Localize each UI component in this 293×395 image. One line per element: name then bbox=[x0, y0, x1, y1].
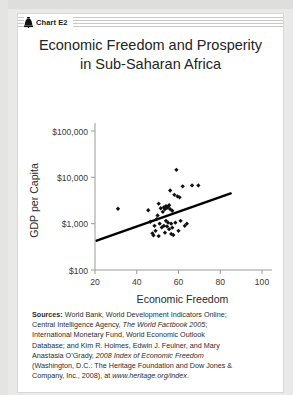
data-point bbox=[152, 224, 156, 228]
liberty-bell-icon bbox=[24, 17, 33, 28]
chart-label-group: Chart E2 bbox=[24, 14, 73, 31]
y-axis-label: GDP per Capita bbox=[28, 163, 40, 238]
sources-citation-title: 2008 Index of Economic Freedom bbox=[96, 351, 204, 360]
x-tick-label: 20 bbox=[90, 277, 100, 287]
scan-edge-top bbox=[0, 0, 293, 9]
sources-line: Central Intelligence Agency, The World F… bbox=[32, 320, 274, 330]
title-line-2: in Sub-Saharan Africa bbox=[18, 55, 283, 74]
x-tick-label: 100 bbox=[255, 277, 270, 287]
sources-label: Sources: bbox=[32, 310, 63, 319]
page-title: Economic Freedom and Prosperity in Sub-S… bbox=[18, 36, 283, 74]
data-point bbox=[159, 206, 163, 210]
data-point bbox=[190, 183, 194, 187]
data-points bbox=[116, 168, 201, 239]
sources-line: Anastasia O’Grady, 2008 Index of Economi… bbox=[32, 351, 274, 361]
sources-line: Sources: World Bank, World Development I… bbox=[32, 310, 274, 320]
data-point bbox=[178, 219, 182, 223]
trend-line bbox=[97, 193, 231, 240]
sources-line: (Washington, D.C.: The Heritage Foundati… bbox=[32, 361, 274, 371]
data-point bbox=[181, 184, 185, 188]
scatter-chart: $100$1,000$10,000$100,00020406080100Econ… bbox=[18, 94, 283, 309]
x-axis-label: Economic Freedom bbox=[137, 293, 229, 305]
sources-line: Database; and Kim R. Holmes, Edwin J. Fe… bbox=[32, 341, 274, 351]
data-point bbox=[174, 168, 178, 172]
data-point bbox=[176, 229, 180, 233]
x-tick-label: 40 bbox=[132, 277, 142, 287]
y-tick-label: $100 bbox=[69, 266, 88, 276]
data-point bbox=[153, 229, 157, 233]
page-background: Chart E2 Economic Freedom and Prosperity… bbox=[0, 0, 293, 395]
chart-label: Chart E2 bbox=[36, 18, 68, 27]
sources-citation-title: www.heritage.org/index bbox=[112, 371, 187, 380]
data-point bbox=[155, 213, 159, 217]
data-point bbox=[116, 207, 120, 211]
y-tick-label: $100,000 bbox=[52, 127, 88, 137]
data-point bbox=[173, 221, 177, 225]
data-point bbox=[196, 183, 200, 187]
y-tick-label: $1,000 bbox=[62, 219, 89, 229]
title-line-1: Economic Freedom and Prosperity bbox=[18, 36, 283, 55]
sources-block: Sources: World Bank, World Development I… bbox=[32, 310, 274, 381]
data-point bbox=[157, 234, 161, 238]
data-point bbox=[158, 222, 162, 226]
chart-card: Chart E2 Economic Freedom and Prosperity… bbox=[18, 14, 283, 392]
y-tick-label: $10,000 bbox=[57, 173, 88, 183]
scan-edge-left bbox=[0, 0, 8, 395]
data-point bbox=[168, 188, 172, 192]
data-point bbox=[163, 230, 167, 234]
sources-line: Company, Inc., 2008), at www.heritage.or… bbox=[32, 371, 274, 381]
x-tick-label: 60 bbox=[174, 277, 184, 287]
chart-header: Chart E2 bbox=[18, 14, 283, 31]
x-tick-label: 80 bbox=[215, 277, 225, 287]
sources-citation-title: The World Factbook 2005 bbox=[123, 320, 206, 329]
data-point bbox=[157, 202, 161, 206]
chart-svg: $100$1,000$10,000$100,00020406080100Econ… bbox=[18, 94, 283, 309]
data-point bbox=[146, 208, 150, 212]
sources-line: International Monetary Fund, World Econo… bbox=[32, 330, 274, 340]
